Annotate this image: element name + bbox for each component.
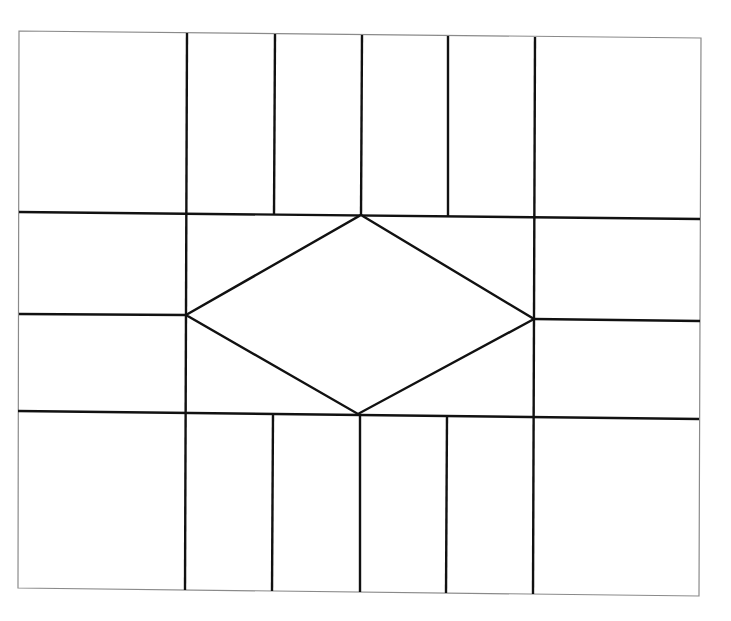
right-outer-vertical: [533, 37, 535, 594]
bottom-vertical-1: [272, 414, 273, 591]
central-diamond: [186, 215, 534, 414]
top-vertical-1: [274, 34, 275, 214]
grid-diagram: [0, 0, 731, 621]
bottom-vertical-3: [446, 416, 447, 593]
middle-left-horizontal: [19, 314, 186, 315]
middle-right-horizontal: [534, 319, 700, 321]
top-vertical-2: [361, 35, 362, 215]
left-outer-vertical: [185, 33, 187, 590]
